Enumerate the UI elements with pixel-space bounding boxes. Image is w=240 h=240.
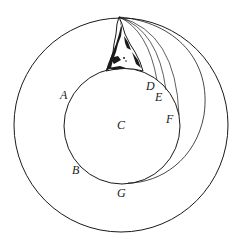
label-c: C — [117, 119, 125, 131]
label-b: B — [72, 164, 79, 176]
label-a: A — [60, 89, 67, 101]
mountain-icon — [106, 17, 143, 71]
label-d: D — [146, 80, 155, 92]
label-f: F — [166, 113, 173, 125]
label-g: G — [117, 187, 126, 199]
label-e: E — [155, 91, 162, 103]
newton-cannonball-diagram: A B C D E F G — [0, 0, 240, 240]
